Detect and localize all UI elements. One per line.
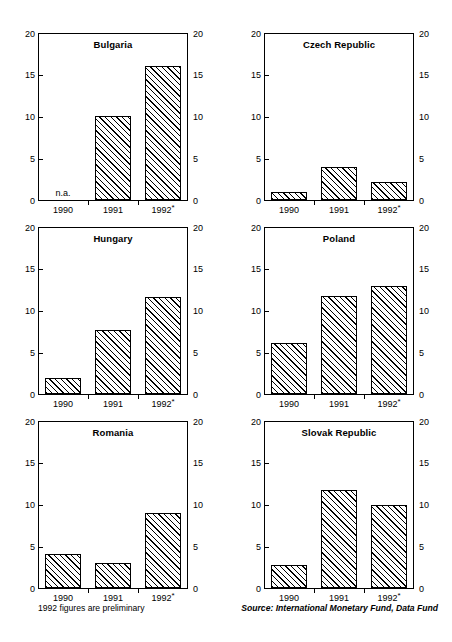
bars-container: [264, 33, 414, 200]
y-tick-label-right: 15: [189, 265, 203, 274]
y-tick-label-right: 15: [189, 71, 203, 80]
y-tick-label-left: 15: [25, 459, 39, 468]
bar: [271, 343, 307, 394]
bar: [95, 563, 131, 588]
y-tick-label-right: 0: [189, 197, 198, 206]
bar-slot-1992: [138, 227, 188, 394]
y-tick-label-right: 20: [415, 418, 429, 427]
bars-container: [38, 227, 188, 394]
x-tick-label: 1992*: [364, 398, 414, 412]
y-tick-label-left: 10: [25, 501, 39, 510]
source-credit: Source: International Monetary Fund, Dat…: [241, 602, 438, 614]
bar: [371, 286, 407, 394]
bar: [45, 554, 81, 588]
panel-grid: 0055101015152020n.a.199019911992*Bulgari…: [0, 26, 452, 594]
y-tick-label-right: 20: [189, 30, 203, 39]
panel-title: Czech Republic: [264, 39, 414, 50]
bar: [145, 297, 181, 394]
y-tick-label-right: 10: [415, 501, 429, 510]
x-tick-label: 1990: [38, 204, 88, 218]
bar: [95, 330, 131, 394]
x-axis-labels: 199019911992*: [38, 398, 188, 412]
y-tick-label-right: 5: [189, 155, 198, 164]
figure-small-multiples-bar-charts: 0055101015152020n.a.199019911992*Bulgari…: [0, 0, 452, 642]
panel-bulgaria: 0055101015152020n.a.199019911992*Bulgari…: [0, 26, 226, 216]
panel-title: Hungary: [38, 233, 188, 244]
figure-footer: 1992 figures are preliminary Source: Int…: [0, 602, 452, 622]
panel-romania: 0055101015152020199019911992*Romania: [0, 414, 226, 604]
y-tick-label-right: 10: [189, 113, 203, 122]
bar-slot-1990: [264, 421, 314, 588]
bars-container: [264, 421, 414, 588]
y-tick-label-right: 5: [415, 349, 424, 358]
y-tick-label-right: 15: [415, 459, 429, 468]
y-tick-label-left: 15: [251, 265, 265, 274]
y-tick-label-right: 20: [189, 224, 203, 233]
bar-slot-1991: [88, 33, 138, 200]
bar: [45, 378, 81, 394]
y-tick-label-left: 20: [251, 30, 265, 39]
x-tick-label: 1991: [314, 398, 364, 412]
bar-slot-1992: [364, 33, 414, 200]
bar-slot-1990: [264, 33, 314, 200]
y-tick-label-right: 20: [189, 418, 203, 427]
y-tick-label-right: 0: [415, 391, 424, 400]
x-tick-label: 1990: [38, 398, 88, 412]
y-tick-label-left: 15: [25, 265, 39, 274]
bar-slot-1991: [314, 421, 364, 588]
panel-czech-republic: 0055101015152020199019911992*Czech Repub…: [226, 26, 452, 216]
bar: [371, 505, 407, 589]
y-tick-label-right: 0: [415, 585, 424, 594]
preliminary-asterisk: *: [397, 203, 400, 212]
y-tick-label-right: 5: [415, 543, 424, 552]
y-tick-label-left: 15: [251, 71, 265, 80]
y-tick-label-left: 20: [25, 418, 39, 427]
y-tick-label-left: 15: [251, 459, 265, 468]
preliminary-asterisk: *: [397, 591, 400, 600]
x-tick-label: 1991: [314, 204, 364, 218]
y-tick-label-right: 20: [415, 224, 429, 233]
x-tick-label: 1990: [264, 398, 314, 412]
y-tick-label-left: 10: [251, 307, 265, 316]
footnote-preliminary: 1992 figures are preliminary: [38, 602, 145, 614]
bar: [145, 513, 181, 588]
bar: [321, 167, 357, 200]
y-tick-label-right: 10: [189, 501, 203, 510]
x-axis-labels: 199019911992*: [264, 204, 414, 218]
bar: [371, 182, 407, 200]
preliminary-asterisk: *: [171, 591, 174, 600]
y-tick-label-right: 10: [189, 307, 203, 316]
y-tick-label-left: 10: [251, 113, 265, 122]
bar-slot-1991: [88, 421, 138, 588]
y-tick-label-right: 10: [415, 307, 429, 316]
y-tick-label-left: 20: [251, 418, 265, 427]
x-tick-label: 1992*: [364, 204, 414, 218]
x-tick-label: 1992*: [138, 398, 188, 412]
panel-title: Poland: [264, 233, 414, 244]
bars-container: [38, 421, 188, 588]
y-tick-label-right: 5: [189, 543, 198, 552]
bar: [321, 490, 357, 588]
y-tick-label-left: 10: [25, 113, 39, 122]
y-tick-label-right: 15: [189, 459, 203, 468]
bar-slot-1992: [364, 227, 414, 394]
y-tick-label-right: 0: [189, 391, 198, 400]
x-tick-label: 1990: [264, 204, 314, 218]
bars-container: [264, 227, 414, 394]
y-tick-label-left: 20: [25, 30, 39, 39]
y-tick-label-left: 10: [25, 307, 39, 316]
bar-slot-1990: [38, 421, 88, 588]
na-label: n.a.: [38, 188, 88, 198]
x-tick-label: 1991: [88, 204, 138, 218]
bar-slot-1991: [314, 33, 364, 200]
y-tick-label-right: 10: [415, 113, 429, 122]
bars-container: n.a.: [38, 33, 188, 200]
bar-slot-1990: [38, 227, 88, 394]
x-tick-label: 1992*: [138, 204, 188, 218]
panel-title: Bulgaria: [38, 39, 188, 50]
preliminary-asterisk: *: [397, 397, 400, 406]
bar: [271, 565, 307, 588]
y-tick-label-left: 20: [25, 224, 39, 233]
preliminary-asterisk: *: [171, 397, 174, 406]
x-axis-labels: 199019911992*: [264, 398, 414, 412]
